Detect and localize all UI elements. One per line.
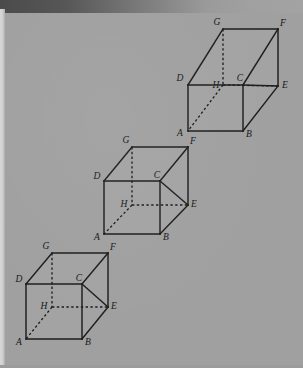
box-bottom-face-front xyxy=(26,284,82,339)
box-top-vertex-label-d: D xyxy=(177,74,184,84)
box-bottom-vertex-label-b: B xyxy=(85,338,91,348)
top-box xyxy=(188,29,278,131)
box-top-face-front xyxy=(188,85,243,131)
boxes-drawing xyxy=(0,0,303,368)
bottom-box xyxy=(26,253,108,339)
figure-canvas: ABCDEFGHABCDEFGHABCDEFGH xyxy=(0,0,303,368)
box-top-vertex-label-c: C xyxy=(237,74,243,84)
box-middle-vertex-label-g: G xyxy=(123,136,130,146)
box-middle-vertex-label-a: A xyxy=(94,233,100,243)
box-middle-vertex-label-f: F xyxy=(190,137,196,147)
box-bottom-vertex-label-f: F xyxy=(110,243,116,253)
box-bottom-vertex-label-h: H xyxy=(41,302,48,312)
box-middle-vertex-label-e: E xyxy=(191,200,197,210)
box-bottom-vertex-label-c: C xyxy=(76,274,82,284)
box-middle-vertex-label-d: D xyxy=(94,172,101,182)
box-top-vertex-label-a: A xyxy=(177,129,183,139)
box-top-vertex-label-h: H xyxy=(213,81,220,91)
box-top-vertex-label-b: B xyxy=(246,130,252,140)
box-middle-face-front xyxy=(104,181,160,234)
middle-box xyxy=(104,147,188,234)
box-bottom-vertex-label-d: D xyxy=(16,275,23,285)
box-bottom-vertex-label-e: E xyxy=(111,302,117,312)
box-middle-vertex-label-b: B xyxy=(163,233,169,243)
box-top-vertex-label-e: E xyxy=(282,81,288,91)
box-top-vertex-label-f: F xyxy=(280,19,286,29)
box-top-vertex-label-g: G xyxy=(214,18,221,28)
box-middle-vertex-label-h: H xyxy=(121,200,128,210)
box-bottom-vertex-label-a: A xyxy=(16,338,22,348)
box-bottom-vertex-label-g: G xyxy=(43,242,50,252)
box-middle-vertex-label-c: C xyxy=(154,171,160,181)
